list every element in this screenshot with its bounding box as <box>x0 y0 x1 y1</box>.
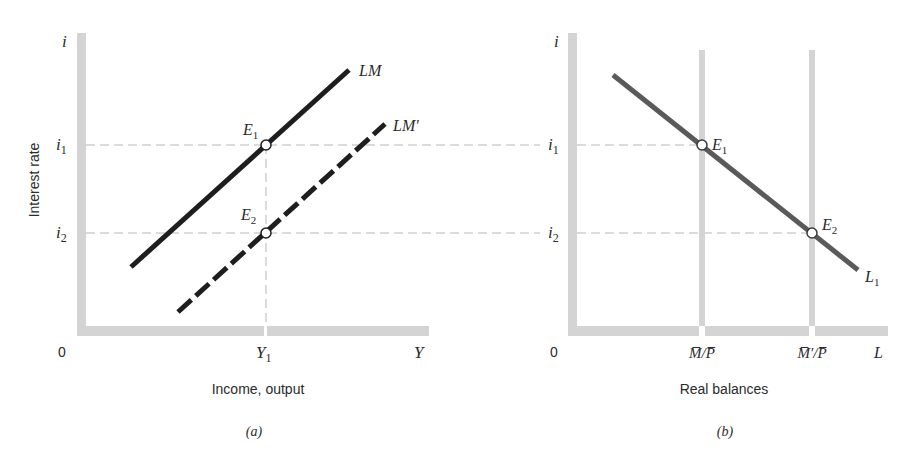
x-axis-symbol-b: L <box>873 344 883 361</box>
label-e1-a: E1 <box>242 121 258 141</box>
tick-i2-b: i2 <box>548 223 559 245</box>
x-axis-symbol-a: Y <box>414 343 425 362</box>
label-lm-prime: LM′ <box>392 117 419 134</box>
panel-b: i i1 i2 E1 E2 L1 0 M̅/P̅ M̅′/P̅ L Real b… <box>548 32 888 440</box>
y-axis-a <box>77 33 86 336</box>
origin-a: 0 <box>58 344 66 360</box>
caption-a: (a) <box>246 424 263 440</box>
money-supply-line-2 <box>809 50 815 326</box>
y-axis-b <box>568 33 577 336</box>
money-supply-line-1 <box>699 50 705 326</box>
point-e1-b <box>697 140 707 150</box>
x-axis-a <box>77 326 429 336</box>
tick-i1-a: i1 <box>56 135 67 157</box>
x-axis-b <box>568 326 888 336</box>
label-e2-b: E2 <box>821 216 837 236</box>
tick-i1-b: i1 <box>548 135 559 157</box>
lm-curve <box>131 70 349 267</box>
origin-b: 0 <box>550 344 558 360</box>
caption-b: (b) <box>717 424 734 440</box>
lm-prime-curve <box>178 124 385 312</box>
point-e1-a <box>261 140 271 150</box>
panel-a: i i1 i2 Interest rate LM LM′ E1 E2 0 Y1 … <box>26 32 429 440</box>
y-axis-symbol-a: i <box>62 32 67 51</box>
figure-canvas: i i1 i2 Interest rate LM LM′ E1 E2 0 Y1 … <box>0 0 915 465</box>
tick-i2-a: i2 <box>56 223 67 245</box>
tick-mp: M̅/P̅ <box>688 345 715 361</box>
tick-y1: Y1 <box>256 343 271 365</box>
point-e2-b <box>807 228 817 238</box>
x-axis-title-a: Income, output <box>212 381 305 397</box>
y-axis-symbol-b: i <box>554 32 559 51</box>
x-axis-a-gap <box>264 326 267 336</box>
label-e2-a: E2 <box>240 206 256 226</box>
point-e2-a <box>261 228 271 238</box>
tick-mp-prime: M̅′/P̅ <box>796 345 827 361</box>
y-axis-title-a: Interest rate <box>26 142 42 217</box>
x-axis-title-b: Real balances <box>680 381 769 397</box>
x-axis-b-gap-1 <box>699 326 705 336</box>
x-axis-b-gap-2 <box>809 326 815 336</box>
label-l1: L1 <box>864 268 879 288</box>
label-lm: LM <box>358 62 383 79</box>
l1-curve <box>613 75 858 270</box>
